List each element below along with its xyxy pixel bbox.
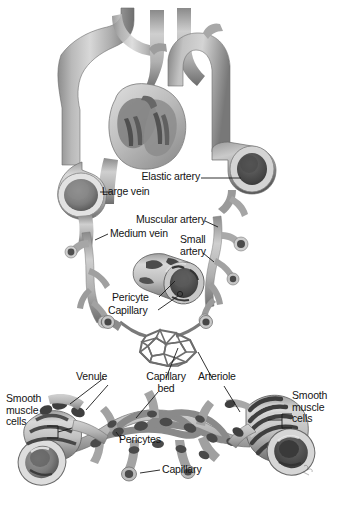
label-muscular-artery: Muscular artery: [98, 214, 206, 226]
elastic-artery-cut: [212, 142, 276, 217]
label-smooth-muscle-cells-left: Smooth muscle cells: [6, 393, 52, 428]
blood-vessel-diagram: Elastic artery Large vein Muscular arter…: [0, 0, 342, 505]
label-elastic-artery: Elastic artery: [108, 171, 200, 183]
label-pericyte: Pericyte: [112, 292, 149, 304]
label-medium-vein: Medium vein: [110, 228, 168, 240]
lower-vessel-assembly: [11, 390, 322, 492]
label-arteriole: Arteriole: [198, 371, 236, 383]
label-capillary-bottom: Capillary: [162, 464, 202, 476]
label-smooth-muscle-cells-right: Smooth muscle cells: [292, 390, 338, 425]
capillary-bed-mesh: [102, 316, 213, 367]
label-large-vein: Large vein: [102, 186, 150, 198]
label-venule: Venule: [76, 371, 107, 383]
label-capillary-bed: Capillary bed: [140, 371, 192, 394]
small-artery-group: [199, 216, 248, 326]
diagram-artwork: [0, 0, 342, 505]
label-small-artery: Small artery: [180, 234, 214, 257]
label-pericytes: Pericytes: [119, 434, 161, 446]
label-capillary-top: Capillary: [108, 305, 148, 317]
medium-vein-group: [65, 232, 110, 328]
